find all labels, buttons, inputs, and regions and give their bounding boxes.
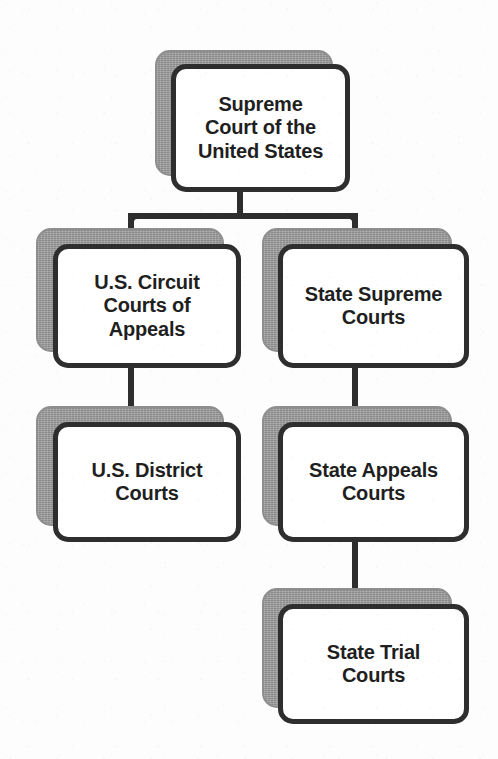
node-state-appeals-courts[interactable]: State Appeals Courts [262, 406, 469, 542]
connector-state-appeals-to-trial [352, 540, 358, 590]
node-label: State Trial Courts [321, 641, 426, 687]
node-label: U.S. Circuit Courts of Appeals [88, 271, 205, 341]
court-hierarchy-diagram: Supreme Court of the United States U.S. … [0, 0, 498, 759]
node-label: State Supreme Courts [299, 283, 448, 329]
node-card: State Appeals Courts [278, 422, 469, 542]
node-state-trial-courts[interactable]: State Trial Courts [262, 588, 469, 724]
node-card: Supreme Court of the United States [171, 64, 350, 192]
split-bar-left-elbow [128, 213, 140, 225]
node-us-district-courts[interactable]: U.S. District Courts [36, 406, 241, 542]
node-us-circuit-courts-of-appeals[interactable]: U.S. Circuit Courts of Appeals [36, 228, 241, 368]
node-card: U.S. District Courts [53, 422, 241, 542]
node-state-supreme-courts[interactable]: State Supreme Courts [262, 228, 469, 368]
node-supreme-court-us[interactable]: Supreme Court of the United States [155, 50, 350, 192]
connector-circuit-to-district [128, 364, 134, 408]
node-label: State Appeals Courts [303, 459, 444, 505]
node-card: State Trial Courts [278, 604, 469, 724]
node-card: U.S. Circuit Courts of Appeals [53, 244, 241, 368]
node-label: U.S. District Courts [86, 459, 209, 505]
connector-state-supreme-to-appeals [352, 364, 358, 408]
node-label: Supreme Court of the United States [192, 93, 329, 163]
connector-split-bar [128, 213, 358, 219]
node-card: State Supreme Courts [278, 244, 469, 368]
